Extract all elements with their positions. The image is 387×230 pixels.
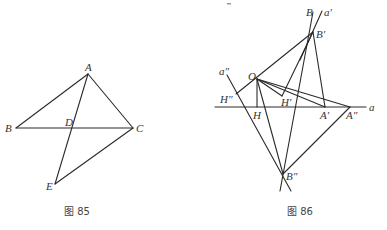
label-H-dprime: H″ <box>219 93 233 105</box>
speck-mark <box>227 3 231 5</box>
label-D: D <box>64 116 73 128</box>
label-C: C <box>136 122 144 134</box>
figure-85: A B D C E 图 85 <box>5 61 144 217</box>
label-a-dprime: a″ <box>219 65 230 77</box>
label-a: a <box>369 101 375 113</box>
caption-figure-85: 图 85 <box>64 206 90 217</box>
label-B: B <box>306 6 313 18</box>
segment-AE <box>55 74 88 184</box>
label-O: O <box>248 70 256 82</box>
caption-figure-86: 图 86 <box>287 206 313 217</box>
label-A-prime: A′ <box>319 109 330 121</box>
label-A: A <box>84 61 92 73</box>
label-H: H <box>252 109 262 121</box>
label-H-prime: H′ <box>280 96 292 108</box>
segment-EC <box>55 128 133 184</box>
segment-Adprime-Bdprime <box>283 107 350 174</box>
segment-OBdprime <box>257 79 283 174</box>
label-B: B <box>5 122 12 134</box>
segment-OAdprime <box>257 79 350 107</box>
label-B-dprime: B″ <box>286 170 298 182</box>
segment-AC <box>88 74 133 128</box>
label-A-dprime: A″ <box>345 109 358 121</box>
label-B-prime: B′ <box>316 28 326 40</box>
line-a-dprime <box>227 75 291 191</box>
segment-Bprime-Aprime <box>313 32 325 107</box>
segment-Bprime-Hprime <box>282 32 313 96</box>
diagram-canvas: A B D C E 图 85 B a′ <box>0 0 387 230</box>
label-a-prime: a′ <box>324 6 333 18</box>
label-E: E <box>45 180 53 192</box>
figure-86: B a′ B′ a″ O H″ H′ H A′ A″ a B″ 图 86 <box>215 3 375 217</box>
segment-AB <box>16 74 88 128</box>
